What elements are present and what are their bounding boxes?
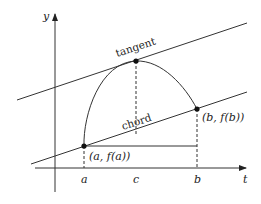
point-b-label: (b, f(b)): [202, 111, 244, 124]
tick-label-c: c: [133, 173, 139, 186]
function-curve: [84, 61, 197, 146]
t-axis-label: t: [243, 173, 248, 186]
mvt-diagram: y t tangent chord (a, f(a)) (b, f(b)) a …: [0, 0, 261, 204]
point-a: [81, 143, 86, 148]
tick-label-b: b: [194, 173, 201, 186]
y-axis-label: y: [42, 10, 50, 23]
point-b: [194, 106, 199, 111]
point-tangent: [133, 58, 138, 63]
tick-label-a: a: [81, 173, 88, 186]
chord-line: [31, 92, 247, 164]
point-a-label: (a, f(a)): [89, 150, 130, 163]
